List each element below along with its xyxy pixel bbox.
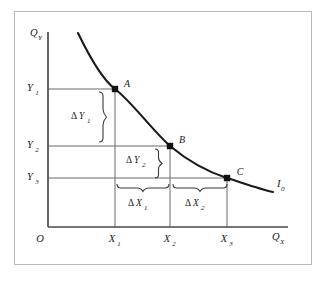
y-axis-label-group: Q Y [30,27,43,41]
y-tick-y3-text: Y [27,171,34,182]
delta-y2-symbol: Δ [126,155,132,165]
y-tick-y2-text: Y [27,139,34,150]
y-axis-label: Q [30,27,38,38]
delta-x1-subscript: 1 [144,204,148,212]
curve-label-subscript: 0 [281,185,285,193]
delta-y1-var: Y [79,111,86,121]
delta-y2-var: Y [134,155,141,165]
brace-delta-x2 [173,184,227,192]
x-tick-x3-text: X [220,233,228,244]
point-marker-a [112,86,118,92]
x-tick-x3-subscript: 3 [228,240,233,248]
delta-y1-subscript: 1 [87,117,91,125]
point-label-a: A [123,78,131,89]
delta-x1-var: X [135,198,143,208]
delta-x2-symbol: Δ [185,198,191,208]
delta-x2-subscript: 2 [201,204,205,212]
x-tick-label-x3: X 3 [220,233,233,247]
delta-y1-symbol: Δ [71,111,77,121]
x-tick-x1-subscript: 1 [117,240,121,248]
annotation-delta-y2: Δ Y 2 [126,155,146,168]
annotation-delta-y1: Δ Y 1 [71,111,91,124]
delta-x2-var: X [192,198,200,208]
curve-point-markers [112,86,230,181]
x-tick-label-x1: X 1 [108,233,121,247]
figure-root: Q Y Q X O Y 1 Y 2 Y 3 X 1 X 2 [0,0,329,282]
x-tick-x2-subscript: 2 [172,240,176,248]
point-label-c: C [237,166,244,177]
indifference-curve-chart: Q Y Q X O Y 1 Y 2 Y 3 X 1 X 2 [0,0,329,282]
y-tick-y1-subscript: 1 [35,89,39,97]
brace-delta-y2 [155,149,162,178]
delta-x1-symbol: Δ [128,198,134,208]
curve-label-group: I 0 [276,178,285,192]
x-tick-x2-text: X [163,233,171,244]
indifference-curve-path [78,33,273,192]
point-label-b: B [179,134,185,145]
y-axis-label-subscript: Y [38,34,43,42]
y-tick-y1-text: Y [27,82,34,93]
origin-label: O [36,233,44,244]
brace-delta-x1 [117,184,169,192]
x-tick-x1-text: X [108,233,116,244]
x-axis-label: Q [272,231,280,242]
brace-delta-y1 [99,92,107,142]
x-axis-label-subscript: X [279,238,285,246]
x-axis-label-group: Q X [272,231,285,245]
y-tick-y2-subscript: 2 [35,146,39,154]
point-marker-b [167,143,173,149]
x-tick-label-x2: X 2 [163,233,176,247]
annotation-delta-x1: Δ X 1 [128,198,148,211]
delta-y2-subscript: 2 [142,161,146,169]
y-tick-label-y3: Y 3 [27,171,39,185]
y-tick-label-y1: Y 1 [27,82,39,96]
y-tick-y3-subscript: 3 [34,178,39,186]
annotation-delta-x2: Δ X 2 [185,198,205,211]
point-marker-c [224,175,230,181]
y-tick-label-y2: Y 2 [27,139,39,153]
